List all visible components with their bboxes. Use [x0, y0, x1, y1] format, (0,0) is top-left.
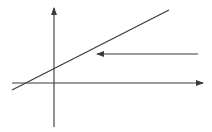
diagram-canvas	[0, 0, 212, 132]
diagram-svg	[0, 0, 212, 132]
sloped-line	[12, 10, 169, 90]
